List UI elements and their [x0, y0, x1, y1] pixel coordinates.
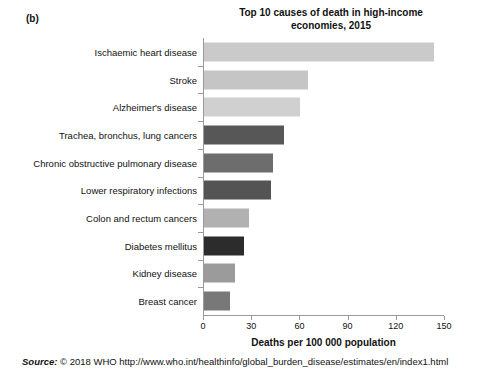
bar-chart-plot: Ischaemic heart diseaseStrokeAlzheimer's… [0, 0, 480, 373]
category-label: Lower respiratory infections [81, 185, 197, 196]
x-axis-tick [203, 316, 204, 320]
category-label: Chronic obstructive pulmonary disease [33, 157, 197, 168]
bar [204, 236, 244, 255]
x-axis-tick [299, 316, 300, 320]
bar-row: Colon and rectum cancers [0, 204, 480, 232]
x-axis-line [203, 315, 444, 316]
x-axis-tick-label: 90 [343, 321, 353, 331]
x-axis-title: Deaths per 100 000 population [203, 337, 444, 348]
bar-row: Alzheimer's disease [0, 93, 480, 121]
bar-row: Kidney disease [0, 260, 480, 288]
bar [204, 292, 230, 311]
x-axis-tick [348, 316, 349, 320]
x-axis-tick-label: 0 [200, 321, 205, 331]
y-axis-tick [198, 93, 203, 94]
x-axis-tick-label: 60 [294, 321, 304, 331]
bar [204, 153, 273, 172]
bar-row: Stroke [0, 66, 480, 94]
category-label: Alzheimer's disease [113, 102, 197, 113]
y-axis-tick [198, 66, 203, 67]
bar-row: Ischaemic heart disease [0, 38, 480, 66]
y-axis-tick [198, 204, 203, 205]
x-axis-tick [251, 316, 252, 320]
y-axis-tick [198, 121, 203, 122]
category-label: Stroke [170, 74, 197, 85]
y-axis-tick [198, 287, 203, 288]
bar [204, 70, 308, 89]
bar-row: Trachea, bronchus, lung cancers [0, 121, 480, 149]
x-axis-tick-label: 120 [388, 321, 403, 331]
category-label: Breast cancer [138, 296, 197, 307]
source-label: Source: [22, 356, 57, 367]
x-axis-tick-label: 150 [436, 321, 451, 331]
source-text: © 2018 WHO http://www.who.int/healthinfo… [60, 356, 448, 367]
category-label: Kidney disease [133, 268, 197, 279]
bar-row: Lower respiratory infections [0, 177, 480, 205]
y-axis-tick [198, 177, 203, 178]
bar [204, 209, 249, 228]
x-axis-tick [396, 316, 397, 320]
bar-row: Breast cancer [0, 287, 480, 315]
bar [204, 98, 300, 117]
bar-row: Chronic obstructive pulmonary disease [0, 149, 480, 177]
bar-row: Diabetes mellitus [0, 232, 480, 260]
y-axis-tick [198, 149, 203, 150]
category-label: Colon and rectum cancers [86, 213, 197, 224]
bar [204, 181, 271, 200]
x-axis-tick [444, 316, 445, 320]
source-line: Source: © 2018 WHO http://www.who.int/he… [22, 356, 448, 367]
y-axis-tick [198, 232, 203, 233]
bar [204, 125, 284, 144]
category-label: Diabetes mellitus [125, 240, 197, 251]
bar [204, 42, 434, 61]
x-axis-tick-label: 30 [246, 321, 256, 331]
category-label: Ischaemic heart disease [95, 46, 197, 57]
bar [204, 264, 235, 283]
y-axis-tick [198, 260, 203, 261]
category-label: Trachea, bronchus, lung cancers [59, 129, 197, 140]
